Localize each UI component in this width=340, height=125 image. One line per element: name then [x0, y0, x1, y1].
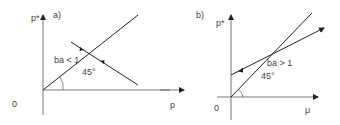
- panel-a-y-axis-label: p*: [31, 14, 40, 23]
- panel-a-x-axis-label: p: [170, 101, 175, 110]
- panel-a-angle-label: 45°: [82, 68, 96, 77]
- panel-b-arrow-left-icon: [238, 68, 243, 73]
- panel-b-title: b): [196, 11, 204, 20]
- panel-b-x-axis-label: μ: [305, 106, 310, 115]
- panel-b-angle-arc: [238, 89, 243, 97]
- panel-b-angle-label: 45°: [261, 72, 275, 81]
- panel-a-angle-arc: [60, 77, 63, 90]
- panel-a-title: a): [53, 11, 61, 20]
- panel-a-condition-label: ba < 1: [54, 56, 79, 65]
- panel-b-condition-label: ba > 1: [267, 59, 292, 68]
- panel-b-y-axis-label: p*: [216, 19, 225, 28]
- panel-a-origin-label: 0: [12, 100, 17, 109]
- panel-a: [43, 15, 170, 115]
- panel-a-45-degree-line: [43, 15, 138, 90]
- panel-b-origin-label: 0: [214, 104, 219, 113]
